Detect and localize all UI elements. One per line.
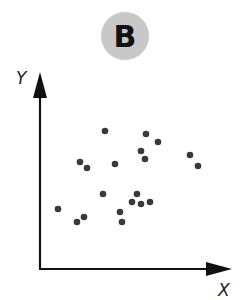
data-point — [155, 139, 162, 146]
data-point — [143, 131, 150, 138]
y-axis-label: Y — [16, 68, 26, 88]
data-point — [138, 201, 145, 208]
data-point — [134, 191, 141, 198]
data-point — [187, 152, 194, 159]
y-axis-arrow-icon — [33, 72, 47, 98]
data-point — [84, 165, 91, 172]
x-axis-arrow-icon — [206, 262, 232, 276]
data-point — [74, 219, 81, 226]
panel-label-badge: B — [101, 12, 149, 60]
data-point — [55, 206, 62, 213]
data-points — [55, 128, 202, 226]
data-point — [142, 156, 149, 163]
data-point — [100, 191, 107, 198]
data-point — [138, 148, 145, 155]
data-point — [195, 163, 202, 170]
data-point — [102, 128, 109, 135]
data-point — [147, 199, 154, 206]
data-point — [117, 209, 124, 216]
data-point — [129, 199, 136, 206]
x-axis-label: X — [218, 280, 230, 300]
panel-label: B — [114, 19, 137, 54]
data-point — [119, 219, 126, 226]
data-point — [81, 214, 88, 221]
data-point — [77, 159, 84, 166]
data-point — [112, 161, 119, 168]
